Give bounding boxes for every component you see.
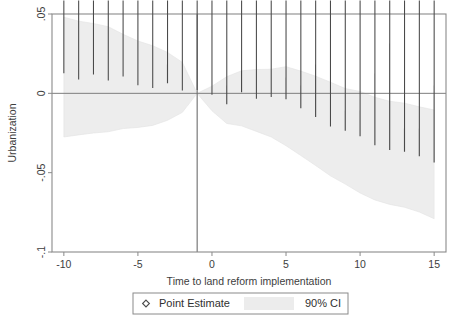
legend-label-point-estimate: Point Estimate [159,297,230,309]
legend-label-ci: 90% CI [305,297,341,309]
x-tick-label: 10 [354,258,366,270]
x-tick-label: -5 [133,258,142,270]
y-axis-title: Urbanization [6,103,18,162]
x-tick-label: 15 [428,258,440,270]
x-tick-label: -10 [56,258,71,270]
x-tick-label: 0 [209,258,215,270]
event-study-chart: -10-5051015 .050-.05-.1 Time to land ref… [0,0,463,326]
y-tick-label: -.05 [35,163,47,181]
y-tick-label: -.1 [35,246,47,258]
chart-figure: -10-5051015 .050-.05-.1 Time to land ref… [0,0,463,326]
legend-ci-swatch [244,297,294,310]
y-tick-label: .05 [35,7,47,22]
x-axis-title: Time to land reform implementation [167,275,332,287]
chart-legend: Point Estimate 90% CI [133,293,348,314]
y-tick-label: 0 [35,90,47,96]
x-tick-label: 5 [283,258,289,270]
